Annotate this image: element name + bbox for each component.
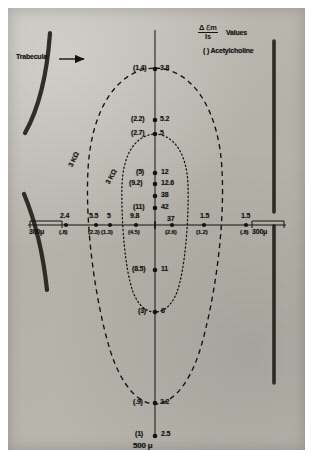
axis-label-ach-ax-15a: (1.2): [196, 228, 208, 235]
point-label-value-p-3-6: 6: [161, 307, 165, 314]
axis-label-value-ax-15b: 1.5: [241, 212, 250, 219]
axis-label-ach-ax-37: (2.6): [165, 228, 177, 235]
point-label-ach-p-09-22: (.9): [133, 398, 143, 405]
axis-label-value-ax-15a: 1.5: [200, 212, 209, 219]
axis-label-ach-ax-55: (2.3): [88, 228, 100, 235]
legend-denominator: Is: [198, 33, 218, 41]
point-label-ach-p-11-42: (11): [133, 203, 144, 210]
legend-acetylcholine-note: ( ) Acetylcholine: [203, 47, 253, 54]
axis-label-value-ax-98: 9.8: [130, 212, 139, 219]
point-label-value-p-1-25: 2.5: [161, 430, 170, 437]
point-label-value-p-92-126: 12.6: [161, 179, 174, 186]
point-label-value-p-85-11: 11: [161, 265, 168, 272]
point-label-value-p-38: 38: [161, 191, 168, 198]
axis-label-ach-ax-24: (.8): [59, 228, 67, 235]
point-label-value-p-22-52: 5.2: [160, 115, 169, 122]
figure-root: Trabecula Δ ℰm Is Values ( ) Acetylcholi…: [0, 0, 313, 466]
axis-label-ach-ax-15b: (.8): [240, 228, 248, 235]
point-label-ach-p-85-11: (8.5): [132, 265, 145, 272]
legend-values-label: Values: [226, 29, 247, 36]
point-label-value-p-5-12: 12: [161, 168, 168, 175]
point-label-ach-p-1-25: (1): [135, 430, 143, 437]
axis-label-value-ax-24: 2.4: [60, 212, 69, 219]
legend-numerator: Δ ℰm: [198, 24, 218, 32]
axis-label-ach-ax-5: (1.3): [101, 228, 113, 235]
legend-fraction: Δ ℰm Is: [198, 24, 218, 41]
axis-label-value-ax-55: 5.5: [89, 212, 98, 219]
point-label-ach-p-92-126: (9.2): [129, 179, 142, 186]
point-label-ach-p-27-5: (2.7): [131, 129, 144, 136]
point-label-ach-p-top: (1.4): [133, 64, 146, 71]
point-label-value-p-09-22: 2.2: [160, 398, 169, 405]
scale-label-left: 300μ: [29, 228, 44, 235]
trabecula-label: Trabecula: [16, 53, 47, 60]
point-label-ach-p-5-12: (5): [136, 168, 144, 175]
scale-label-right: 300μ: [252, 228, 267, 235]
point-label-value-p-27-5: 5: [160, 129, 164, 136]
point-label-ach-p-3-6: (3): [138, 307, 146, 314]
trabecula-left-band: [24, 33, 50, 290]
axis-label-ach-ax-98: (4.5): [128, 228, 140, 235]
axis-label-value-ax-37: 37: [167, 215, 174, 222]
axis-label-value-ax-5: 5: [107, 212, 111, 219]
point-label-ach-p-22-52: (2.2): [131, 115, 144, 122]
point-label-value-p-11-42: 42: [161, 203, 168, 210]
scale-label-bottom: 500 μ: [133, 441, 152, 450]
point-label-value-p-top: 3.8: [160, 64, 169, 71]
